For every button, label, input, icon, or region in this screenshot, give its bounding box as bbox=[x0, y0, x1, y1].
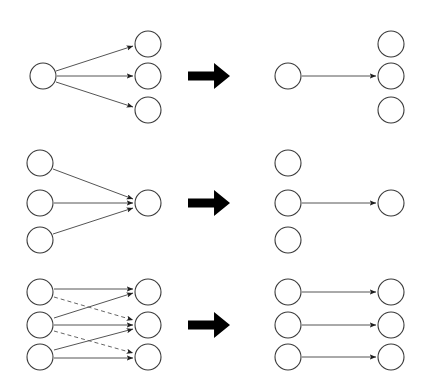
b-target-1 bbox=[135, 190, 161, 216]
c-target-2 bbox=[135, 312, 161, 338]
cprime-target-2 bbox=[378, 312, 404, 338]
panel-c-prime bbox=[275, 279, 404, 370]
a-target-2 bbox=[135, 63, 161, 89]
b-source-3 bbox=[27, 227, 53, 253]
edge-a-2 bbox=[56, 82, 133, 107]
aprime-target-2 bbox=[378, 63, 404, 89]
panel-b-prime bbox=[275, 150, 404, 253]
cprime-source-3 bbox=[275, 344, 301, 370]
aprime-target-1 bbox=[378, 31, 404, 57]
edge-c-4 bbox=[54, 331, 133, 353]
cprime-source-1 bbox=[275, 279, 301, 305]
a-target-3 bbox=[135, 97, 161, 123]
cprime-target-1 bbox=[378, 279, 404, 305]
panel-c bbox=[27, 279, 161, 370]
transform-arrow-a bbox=[188, 63, 230, 89]
a-target-1 bbox=[135, 31, 161, 57]
transform-arrow-c bbox=[188, 312, 230, 338]
edge-a-0 bbox=[56, 46, 133, 71]
panel-b bbox=[27, 150, 161, 253]
bprime-source-2 bbox=[275, 190, 301, 216]
aprime-target-3 bbox=[378, 97, 404, 123]
c-source-2 bbox=[27, 312, 53, 338]
aprime-source-1 bbox=[275, 63, 301, 89]
edge-b-2 bbox=[53, 208, 133, 234]
b-source-1 bbox=[27, 150, 53, 176]
panel-a bbox=[30, 31, 161, 123]
b-source-2 bbox=[27, 190, 53, 216]
transform-arrow-b bbox=[188, 190, 230, 216]
panel-a-prime bbox=[275, 31, 404, 123]
bprime-target-1 bbox=[378, 190, 404, 216]
cprime-target-3 bbox=[378, 344, 404, 370]
c-source-3 bbox=[27, 344, 53, 370]
transform-arrows-layer bbox=[188, 63, 230, 338]
c-source-1 bbox=[27, 279, 53, 305]
diagram-canvas bbox=[0, 0, 422, 384]
diagram-svg bbox=[0, 0, 422, 384]
edge-b-0 bbox=[53, 169, 133, 199]
c-target-3 bbox=[135, 344, 161, 370]
edge-c-5 bbox=[54, 329, 133, 350]
edge-c-2 bbox=[54, 293, 133, 318]
bprime-source-1 bbox=[275, 150, 301, 176]
bprime-source-3 bbox=[275, 227, 301, 253]
edge-c-1 bbox=[54, 297, 133, 320]
a-source-1 bbox=[30, 63, 56, 89]
c-target-1 bbox=[135, 279, 161, 305]
cprime-source-2 bbox=[275, 312, 301, 338]
